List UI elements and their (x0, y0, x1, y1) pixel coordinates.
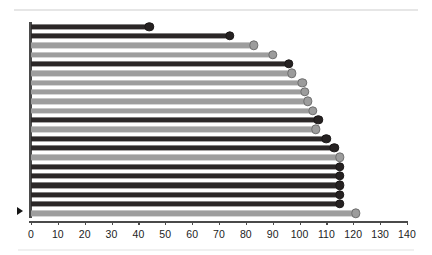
lollipop-chart-figure: 0102030405060708090100110120130140 (0, 0, 432, 255)
lollipop-stem (31, 33, 230, 38)
lollipop-row (31, 41, 407, 50)
x-axis-tick-label: 10 (43, 228, 73, 240)
x-axis-tick-label: 50 (150, 228, 180, 240)
x-axis-tick (273, 221, 274, 225)
x-axis-tick (326, 221, 327, 225)
x-axis-tick (380, 221, 381, 225)
lollipop-row (31, 22, 407, 31)
lollipop-stem (31, 192, 340, 197)
lollipop-stem (31, 173, 340, 178)
lollipop-row (31, 171, 407, 180)
lollipop-dot (322, 134, 331, 143)
lollipop-stem (31, 61, 289, 66)
x-axis-tick-label: 80 (231, 228, 261, 240)
lollipop-dot (330, 143, 339, 152)
lollipop-stem (31, 183, 340, 188)
lollipop-stem (31, 89, 305, 94)
lollipop-row (31, 190, 407, 199)
lollipop-stem (31, 52, 273, 57)
lollipop-row (31, 199, 407, 208)
lollipop-dot (303, 97, 312, 106)
lollipop-row (31, 143, 407, 152)
lollipop-stem (31, 136, 326, 141)
lollipop-stem (31, 43, 254, 48)
lollipop-stem (31, 108, 313, 113)
x-axis-tick (407, 221, 408, 225)
lollipop-row (31, 153, 407, 162)
x-axis-tick-label: 130 (365, 228, 395, 240)
lollipop-row (31, 59, 407, 68)
lollipop-row (31, 162, 407, 171)
x-axis-tick (192, 221, 193, 225)
x-axis-tick-label: 40 (123, 228, 153, 240)
plot-area (31, 22, 407, 218)
x-axis-tick (165, 221, 166, 225)
lollipop-dot (268, 50, 277, 59)
lollipop-row (31, 181, 407, 190)
lollipop-dot (335, 153, 344, 162)
lollipop-stem (31, 24, 149, 29)
x-axis-tick-label: 30 (97, 228, 127, 240)
x-axis-tick (112, 221, 113, 225)
bottom-scan-artifact (18, 249, 414, 251)
lollipop-dot (335, 162, 344, 171)
x-axis-tick (85, 221, 86, 225)
lollipop-stem (31, 155, 340, 160)
x-axis-tick (353, 221, 354, 225)
lollipop-dot (144, 22, 153, 31)
lollipop-stem (31, 201, 340, 206)
lollipop-row (31, 78, 407, 87)
top-scan-artifact (14, 9, 418, 11)
x-axis-tick (219, 221, 220, 225)
lollipop-stem (31, 145, 334, 150)
lollipop-row (31, 69, 407, 78)
lollipop-stem (31, 164, 340, 169)
x-axis-tick-label: 110 (311, 228, 341, 240)
lollipop-row (31, 50, 407, 59)
x-axis-tick-label: 0 (16, 228, 46, 240)
lollipop-dot (311, 125, 320, 134)
origin-marker-icon (17, 207, 23, 215)
lollipop-dot (225, 31, 234, 40)
lollipop-dot (335, 190, 344, 199)
lollipop-row (31, 97, 407, 106)
lollipop-dot (335, 181, 344, 190)
lollipop-dot (298, 78, 307, 87)
x-axis-tick-label: 100 (285, 228, 315, 240)
x-axis-tick (138, 221, 139, 225)
lollipop-dot (308, 106, 317, 115)
lollipop-dot (314, 115, 323, 124)
x-axis-tick-label: 140 (392, 228, 422, 240)
x-axis-tick (300, 221, 301, 225)
lollipop-stem (31, 99, 308, 104)
lollipop-row (31, 31, 407, 40)
lollipop-stem (31, 127, 316, 132)
lollipop-stem (31, 80, 302, 85)
x-axis-tick-label: 60 (177, 228, 207, 240)
lollipop-row (31, 134, 407, 143)
lollipop-row (31, 87, 407, 96)
lollipop-dot (284, 59, 293, 68)
x-axis-tick-label: 70 (204, 228, 234, 240)
lollipop-row (31, 115, 407, 124)
x-axis-tick-label: 120 (338, 228, 368, 240)
lollipop-row (31, 106, 407, 115)
lollipop-dot (335, 171, 344, 180)
lollipop-row (31, 125, 407, 134)
lollipop-stem (31, 117, 318, 122)
lollipop-dot (300, 87, 309, 96)
lollipop-stem (31, 211, 356, 216)
lollipop-dot (351, 209, 360, 218)
lollipop-row (31, 209, 407, 218)
lollipop-dot (249, 41, 258, 50)
lollipop-dot (335, 199, 344, 208)
lollipop-dot (287, 69, 296, 78)
x-axis-tick (58, 221, 59, 225)
x-axis-tick-label: 90 (258, 228, 288, 240)
x-axis-tick (246, 221, 247, 225)
x-axis-tick-label: 20 (70, 228, 100, 240)
lollipop-stem (31, 71, 292, 76)
x-axis-tick (31, 221, 32, 225)
